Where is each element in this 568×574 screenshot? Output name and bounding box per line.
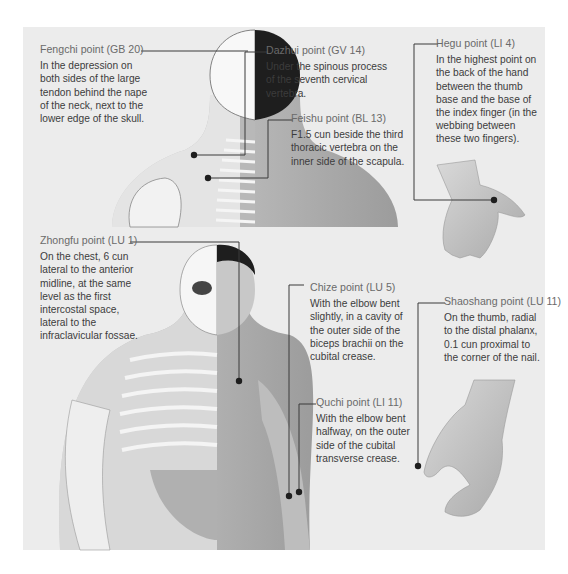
label-feishu: Feishu point (BL 13) F1.5 cun beside the… — [291, 112, 419, 168]
point-title: Shaoshang point (LU 11) — [444, 295, 547, 308]
back-of-hand-figure — [437, 160, 525, 258]
point-description: Under the spinous process of the seventh… — [266, 60, 391, 100]
point-title: Chize point (LU 5) — [310, 281, 410, 294]
dazhui-marker — [191, 152, 197, 158]
point-description: On the chest, 6 cun lateral to the anter… — [40, 250, 140, 342]
label-chize: Chize point (LU 5) With the elbow bent s… — [310, 281, 410, 363]
feishu-marker — [205, 175, 211, 181]
label-quchi: Quchi point (LI 11) With the elbow bent … — [316, 396, 411, 465]
hegu-marker — [491, 197, 497, 203]
point-description: In the depression on both sides of the l… — [40, 59, 150, 125]
chize-marker — [286, 493, 292, 499]
point-title: Zhongfu point (LU 1) — [40, 234, 140, 247]
label-dazhui: Dazhui point (GV 14) Under the spinous p… — [266, 44, 391, 100]
label-shaoshang: Shaoshang point (LU 11) On the thumb, ra… — [444, 295, 547, 364]
point-description: In the highest point on the back of the … — [436, 53, 540, 145]
label-hegu: Hegu point (LI 4) In the highest point o… — [436, 37, 540, 146]
point-description: F1.5 cun beside the third thoracic verte… — [291, 128, 419, 168]
label-zhongfu: Zhongfu point (LU 1) On the chest, 6 cun… — [40, 234, 140, 343]
point-description: On the thumb, radial to the distal phala… — [444, 311, 547, 364]
point-title: Hegu point (LI 4) — [436, 37, 540, 50]
point-title: Fengchi point (GB 20) — [40, 43, 150, 56]
point-title: Feishu point (BL 13) — [291, 112, 419, 125]
point-description: With the elbow bent slightly, in a cavit… — [310, 297, 410, 363]
quchi-marker — [296, 489, 302, 495]
point-title: Dazhui point (GV 14) — [266, 44, 391, 57]
point-title: Quchi point (LI 11) — [316, 396, 411, 409]
zhongfu-marker — [236, 378, 242, 384]
shaoshang-marker — [415, 463, 421, 469]
hand-thumb-side-figure — [424, 380, 515, 516]
label-fengchi: Fengchi point (GB 20) In the depression … — [40, 43, 150, 125]
point-description: With the elbow bent halfway, on the oute… — [316, 412, 411, 465]
